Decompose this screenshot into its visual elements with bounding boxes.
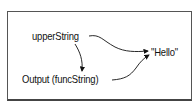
arrows	[0, 0, 194, 108]
arrow-upperstring-to-hello	[89, 36, 148, 52]
arrow-output-to-hello	[112, 55, 149, 80]
arrow-upperstring-to-output	[75, 44, 82, 71]
